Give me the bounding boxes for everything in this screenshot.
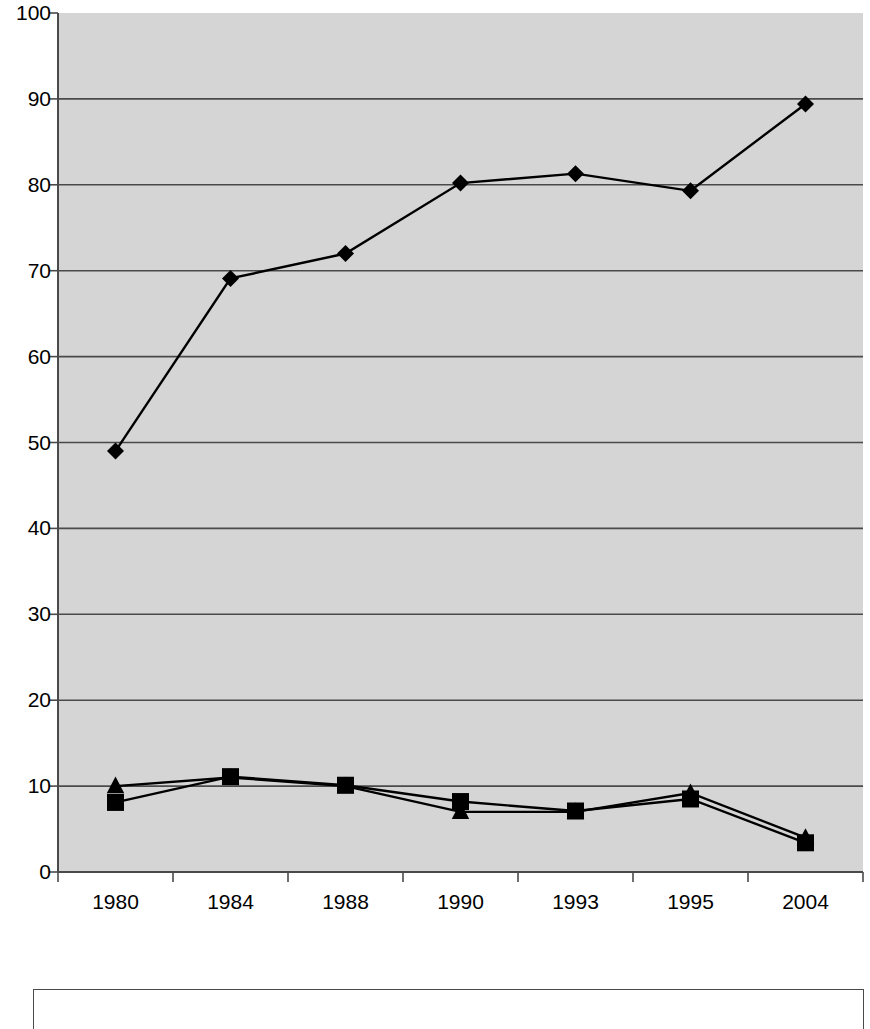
x-axis-tick-label: 1990: [403, 891, 518, 912]
x-axis-tick-label: 1984: [173, 891, 288, 912]
x-axis-tick-label: 2004: [748, 891, 863, 912]
y-axis-tick-label: 10: [5, 775, 51, 796]
y-axis-tick-label: 50: [5, 432, 51, 453]
y-axis-tick-label: 30: [5, 603, 51, 624]
y-axis-tick-label: 0: [5, 861, 51, 882]
y-axis-tick-label: 60: [5, 346, 51, 367]
square-marker: [107, 794, 124, 811]
y-axis-tick-label: 80: [5, 174, 51, 195]
chart-legend: [33, 989, 864, 1029]
x-axis-tick-label: 1993: [518, 891, 633, 912]
y-axis-tick-label: 70: [5, 260, 51, 281]
x-axis-tick-marks: [58, 872, 863, 882]
y-axis-tick-label: 20: [5, 689, 51, 710]
y-axis-tick-label: 100: [5, 2, 51, 23]
y-axis-labels: 0102030405060708090100: [0, 0, 51, 1002]
y-axis-tick-label: 40: [5, 517, 51, 538]
x-axis-tick-label: 1995: [633, 891, 748, 912]
y-axis-tick-label: 90: [5, 88, 51, 109]
x-axis-tick-label: 1980: [58, 891, 173, 912]
x-axis-tick-label: 1988: [288, 891, 403, 912]
